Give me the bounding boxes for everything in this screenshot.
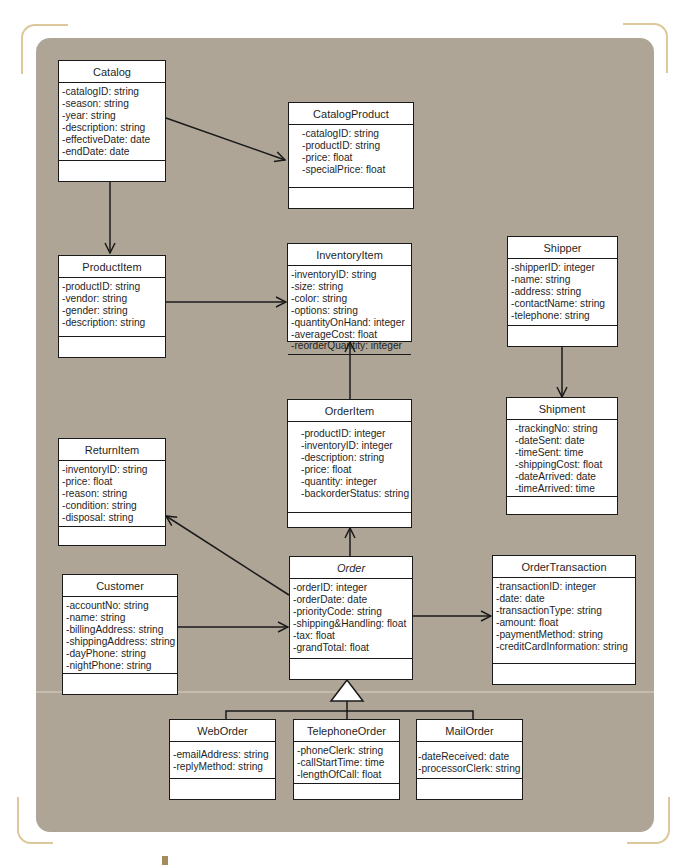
attribute: -averageCost: float	[291, 329, 408, 341]
generalization-triangle-icon	[331, 680, 363, 701]
class-attributes: -catalogID: string -productID: string -p…	[289, 125, 413, 188]
attribute: -reorderQuantity: integer	[291, 340, 408, 352]
class-order-transaction: OrderTransaction -transactionID: integer…	[492, 555, 636, 685]
class-attributes: -trackingNo: string -dateSent: date -tim…	[507, 420, 617, 497]
class-name: Customer	[63, 575, 177, 597]
attribute: -specialPrice: float	[302, 164, 410, 176]
attribute: -quantity: integer	[301, 476, 408, 488]
attribute: -emailAddress: string	[173, 749, 272, 761]
class-attributes: -phoneClerk: string -callStartTime: time…	[294, 742, 399, 784]
attribute: -productID: integer	[301, 428, 408, 440]
attribute: -trackingNo: string	[515, 423, 614, 435]
attribute: -address: string	[511, 286, 614, 298]
class-name: TelephoneOrder	[294, 720, 399, 742]
attribute: -inventoryID: string	[62, 464, 162, 476]
attribute: -timeArrived: time	[515, 483, 614, 495]
assoc-order-returnitem	[166, 516, 289, 595]
attribute: -name: string	[66, 612, 174, 624]
attribute: -catalogID: string	[62, 86, 162, 98]
attribute: -billingAddress: string	[66, 624, 174, 636]
attribute: -processorClerk: string	[418, 763, 519, 775]
attribute: -amount: float	[496, 617, 632, 629]
attribute: -price: float	[301, 464, 408, 476]
class-operations	[507, 497, 617, 514]
class-name: Shipper	[508, 237, 617, 259]
attribute: -contactName: string	[511, 298, 614, 310]
attribute: -timeSent: time	[515, 447, 614, 459]
attribute: -options: string	[291, 305, 408, 317]
attribute: -tax: float	[293, 630, 409, 642]
attribute: -price: float	[62, 476, 162, 488]
class-name: CatalogProduct	[289, 103, 413, 125]
class-attributes: -inventoryID: string -size: string -colo…	[288, 266, 411, 355]
class-operations	[59, 161, 165, 181]
assoc-catalog-catalogproduct	[166, 118, 285, 160]
class-operations	[294, 784, 399, 799]
attribute: -description: string	[301, 452, 408, 464]
attribute: -lengthOfCall: float	[297, 769, 396, 781]
attribute: -description: string	[62, 317, 162, 329]
class-name: MailOrder	[417, 720, 522, 742]
attribute: -replyMethod: string	[173, 761, 272, 773]
class-operations	[417, 779, 522, 799]
attribute: -priorityCode: string	[293, 606, 409, 618]
class-telephone-order: TelephoneOrder -phoneClerk: string -call…	[293, 719, 400, 800]
class-attributes: -transactionID: integer -date: date -tra…	[493, 578, 635, 664]
class-operations	[288, 513, 411, 527]
attribute: -disposal: string	[62, 512, 162, 524]
attribute: -shipperID: integer	[511, 262, 614, 274]
attribute: -inventoryID: string	[291, 269, 408, 281]
class-name: WebOrder	[170, 720, 275, 742]
class-name: ReturnItem	[59, 439, 165, 461]
attribute: -description: string	[62, 122, 162, 134]
attribute: -orderID: integer	[293, 582, 409, 594]
class-operations	[508, 326, 617, 346]
class-attributes: -dateReceived: date -processorClerk: str…	[417, 742, 522, 779]
class-attributes: -orderID: integer -orderDate: date -prio…	[290, 579, 412, 659]
attribute: -productID: string	[302, 140, 410, 152]
attribute: -name: string	[511, 274, 614, 286]
attribute: -dateArrived: date	[515, 471, 614, 483]
class-return-item: ReturnItem -inventoryID: string -price: …	[58, 438, 166, 546]
class-name: InventoryItem	[288, 244, 411, 266]
attribute: -color: string	[291, 293, 408, 305]
class-attributes: -shipperID: integer -name: string -addre…	[508, 259, 617, 326]
class-operations	[290, 659, 412, 679]
attribute: -productID: string	[62, 281, 162, 293]
class-attributes: -productID: integer -inventoryID: intege…	[288, 422, 411, 513]
class-attributes: -emailAddress: string -replyMethod: stri…	[170, 742, 275, 779]
attribute: -shippingCost: float	[515, 459, 614, 471]
attribute: -transactionID: integer	[496, 581, 632, 593]
class-web-order: WebOrder -emailAddress: string -replyMet…	[169, 719, 276, 800]
attribute: -condition: string	[62, 500, 162, 512]
class-name: OrderTransaction	[493, 556, 635, 578]
class-mail-order: MailOrder -dateReceived: date -processor…	[416, 719, 523, 800]
attribute: -shipping&Handling: float	[293, 618, 409, 630]
attribute: -inventoryID: integer	[301, 440, 408, 452]
class-catalog: Catalog -catalogID: string -season: stri…	[58, 60, 166, 182]
class-catalog-product: CatalogProduct -catalogID: string -produ…	[288, 102, 414, 209]
attribute: -nightPhone: string	[66, 660, 174, 672]
attribute: -phoneClerk: string	[297, 745, 396, 757]
class-operations	[59, 337, 165, 357]
attribute: -callStartTime: time	[297, 757, 396, 769]
attribute: -grandTotal: float	[293, 642, 409, 654]
class-operations	[63, 674, 177, 694]
attribute: -telephone: string	[511, 310, 614, 322]
class-operations	[493, 664, 635, 684]
class-operations	[59, 527, 165, 545]
class-name: ProductItem	[59, 256, 165, 278]
class-inventory-item: InventoryItem -inventoryID: string -size…	[287, 243, 412, 342]
class-name: Order	[290, 557, 412, 579]
attribute: -dateReceived: date	[418, 751, 519, 763]
attribute: -year: string	[62, 110, 162, 122]
class-product-item: ProductItem -productID: string -vendor: …	[58, 255, 166, 358]
class-order: Order -orderID: integer -orderDate: date…	[289, 556, 413, 680]
attribute: -date: date	[496, 593, 632, 605]
attribute: -season: string	[62, 98, 162, 110]
class-name: Shipment	[507, 398, 617, 420]
class-shipment: Shipment -trackingNo: string -dateSent: …	[506, 397, 618, 515]
class-customer: Customer -accountNo: string -name: strin…	[62, 574, 178, 695]
class-attributes: -accountNo: string -name: string -billin…	[63, 597, 177, 674]
attribute: -paymentMethod: string	[496, 629, 632, 641]
